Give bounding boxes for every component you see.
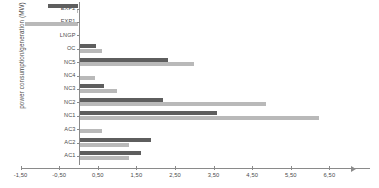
y-axis-tick bbox=[77, 22, 79, 23]
bar-nc4-series-light bbox=[79, 76, 96, 80]
category-label-nc1: NC1 bbox=[42, 112, 76, 118]
bar-group: EXP2 bbox=[0, 4, 379, 17]
category-label-nc4: NC4 bbox=[42, 72, 76, 78]
x-axis-line bbox=[22, 168, 370, 169]
y-axis-tick bbox=[77, 62, 79, 63]
bar-nc5-series-light bbox=[79, 62, 195, 66]
bar-ac1-series-light bbox=[79, 156, 129, 160]
bar-group: EXP1 bbox=[0, 17, 379, 30]
x-axis-label: 4,50 bbox=[235, 172, 269, 178]
x-axis-label: 3,50 bbox=[197, 172, 231, 178]
category-label-nc5: NC5 bbox=[42, 59, 76, 65]
x-axis-tick bbox=[98, 166, 99, 170]
x-axis-tick bbox=[214, 166, 215, 170]
y-axis-tick bbox=[77, 143, 79, 144]
x-axis-arrow-icon bbox=[351, 166, 356, 172]
y-axis-tick bbox=[77, 49, 79, 50]
bar-group: OC bbox=[0, 44, 379, 57]
bar-chart: power consumption/generation (MW) EXP2EX… bbox=[0, 0, 379, 188]
bar-group: AC2 bbox=[0, 138, 379, 151]
bar-ac3-series-light bbox=[79, 129, 102, 133]
bar-oc-series-dark bbox=[79, 44, 96, 48]
category-label-ac3: AC3 bbox=[42, 126, 76, 132]
x-axis-label: -1,50 bbox=[4, 172, 38, 178]
x-axis-label: 2,50 bbox=[158, 172, 192, 178]
x-axis-tick bbox=[59, 166, 60, 170]
y-axis-tick bbox=[77, 9, 79, 10]
bar-group: NC3 bbox=[0, 84, 379, 97]
bar-oc-series-light bbox=[79, 49, 102, 53]
bar-exp1-series-light bbox=[25, 22, 78, 26]
y-axis-tick bbox=[77, 129, 79, 130]
bar-group: NC2 bbox=[0, 98, 379, 111]
bar-group: LNGP bbox=[0, 31, 379, 44]
x-axis-tick bbox=[136, 166, 137, 170]
bar-nc1-series-dark bbox=[79, 111, 218, 115]
category-label-nc3: NC3 bbox=[42, 85, 76, 91]
zero-axis-line bbox=[79, 2, 80, 165]
y-axis-tick bbox=[77, 76, 79, 77]
category-label-lngp: LNGP bbox=[42, 32, 76, 38]
bar-ac2-series-dark bbox=[79, 138, 151, 142]
y-axis-tick bbox=[77, 156, 79, 157]
y-axis-tick bbox=[77, 102, 79, 103]
y-axis-tick bbox=[77, 89, 79, 90]
bar-nc1-series-light bbox=[79, 116, 319, 120]
x-axis-tick bbox=[21, 166, 22, 170]
bar-nc2-series-light bbox=[79, 102, 266, 106]
bar-ac1-series-dark bbox=[79, 151, 142, 155]
bar-nc3-series-dark bbox=[79, 84, 104, 88]
x-axis-label: 6,50 bbox=[312, 172, 346, 178]
x-axis-label: -0,50 bbox=[42, 172, 76, 178]
bar-group: AC1 bbox=[0, 151, 379, 164]
bar-nc5-series-dark bbox=[79, 58, 169, 62]
x-axis-label: 1,50 bbox=[119, 172, 153, 178]
bar-group: NC1 bbox=[0, 111, 379, 124]
y-axis-tick bbox=[77, 35, 79, 36]
bar-nc3-series-light bbox=[79, 89, 118, 93]
x-axis-tick bbox=[252, 166, 253, 170]
y-axis-tick bbox=[77, 116, 79, 117]
x-axis-tick bbox=[175, 166, 176, 170]
bar-group: AC3 bbox=[0, 125, 379, 138]
x-axis-label: 0,50 bbox=[81, 172, 115, 178]
category-label-oc: OC bbox=[42, 45, 76, 51]
bar-ac2-series-light bbox=[79, 143, 130, 147]
bar-nc2-series-dark bbox=[79, 98, 163, 102]
category-label-ac2: AC2 bbox=[42, 139, 76, 145]
x-axis-label: 5,50 bbox=[274, 172, 308, 178]
category-label-ac1: AC1 bbox=[42, 152, 76, 158]
x-axis-tick bbox=[291, 166, 292, 170]
bar-group: NC5 bbox=[0, 58, 379, 71]
plot-area: EXP2EXP1LNGPOCNC5NC4NC3NC2NC1AC3AC2AC1 bbox=[0, 0, 379, 165]
category-label-nc2: NC2 bbox=[42, 99, 76, 105]
bar-group: NC4 bbox=[0, 71, 379, 84]
x-axis-tick bbox=[329, 166, 330, 170]
bar-exp2-series-dark bbox=[48, 4, 78, 8]
